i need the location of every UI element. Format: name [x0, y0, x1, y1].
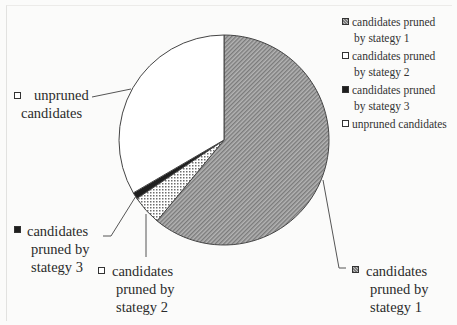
strategy-3-swatch-icon — [14, 226, 21, 233]
unpruned-swatch-icon — [342, 120, 349, 127]
legend-label: candidates pruned — [352, 16, 435, 28]
unpruned-swatch-icon — [14, 92, 21, 99]
callout-strategy-3: candidates pruned by stategy 3 — [14, 222, 89, 276]
legend-label: by stategy 1 — [352, 30, 447, 46]
pie-slices — [119, 35, 329, 245]
strategy-2-swatch-icon — [98, 267, 105, 274]
callout-strategy-2: candidates pruned by stategy 2 — [98, 262, 174, 316]
strategy-3-swatch-icon — [342, 86, 349, 93]
legend: candidates pruned by stategy 1 candidate… — [341, 14, 447, 134]
callout-line: candidates — [98, 262, 174, 280]
callout-unpruned: unpruned candidates — [14, 86, 89, 122]
leader-line-unpruned — [92, 89, 131, 97]
leader-line-strategy-3 — [103, 196, 136, 236]
callout-line: unpruned — [14, 86, 89, 104]
callout-line: stategy 1 — [352, 298, 428, 316]
callout-line: pruned by — [14, 240, 89, 258]
strategy-2-swatch-icon — [342, 52, 349, 59]
callout-line: stategy 2 — [98, 298, 174, 316]
legend-entry-strategy-1: candidates pruned by stategy 1 — [341, 14, 447, 46]
legend-label: by stategy 2 — [352, 64, 447, 80]
strategy-1-swatch-icon — [352, 266, 359, 273]
callout-line: candidates — [14, 222, 89, 240]
callout-line: pruned by — [98, 280, 174, 298]
legend-entry-strategy-2: candidates pruned by stategy 2 — [341, 48, 447, 80]
legend-label: candidates pruned — [352, 84, 435, 96]
callout-strategy-1: candidates pruned by stategy 1 — [352, 262, 428, 316]
legend-label: unpruned candidates — [352, 118, 447, 130]
callout-line: candidates — [14, 104, 89, 122]
leader-line-strategy-1 — [323, 180, 346, 268]
legend-label: by stategy 3 — [352, 98, 447, 114]
legend-entry-unpruned: unpruned candidates — [341, 116, 447, 132]
callout-line: stategy 3 — [14, 258, 89, 276]
legend-label: candidates pruned — [352, 50, 435, 62]
callout-line: pruned by — [352, 280, 428, 298]
callout-line: candidates — [352, 262, 428, 280]
legend-entry-strategy-3: candidates pruned by stategy 3 — [341, 82, 447, 114]
strategy-1-swatch-icon — [342, 18, 349, 25]
